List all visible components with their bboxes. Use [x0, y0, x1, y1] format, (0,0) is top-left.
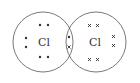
right-atom-symbol: Cl	[89, 36, 101, 49]
cl2-dot-cross-diagram: Cl Cl	[0, 0, 140, 83]
left-atom-symbol: Cl	[38, 36, 50, 49]
